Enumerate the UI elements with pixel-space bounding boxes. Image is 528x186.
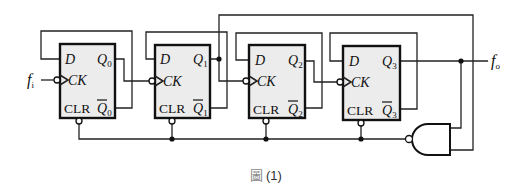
ff0-ck-label: CK	[68, 73, 87, 88]
wire-clr-bus	[79, 124, 405, 139]
junction-q1	[216, 56, 221, 61]
ff1-d-label: D	[159, 52, 170, 67]
ff1-ck-label: CK	[163, 74, 182, 89]
wire-q3-to-nand	[450, 61, 461, 128]
ff0-d-label: D	[64, 52, 75, 67]
ff1-clr-label: CLR	[159, 101, 185, 116]
input-frequency-label: fi	[27, 71, 34, 90]
ff3-d-label: D	[348, 54, 359, 69]
junction-clr3	[358, 136, 363, 141]
wire-q2-to-ck3	[305, 61, 337, 82]
nand-gate	[406, 124, 451, 155]
figure-caption: 圖(1)	[250, 168, 282, 183]
junction-clr1	[169, 136, 174, 141]
ff2-ck-label: CK	[257, 74, 276, 89]
output-frequency-label: fo	[491, 52, 500, 71]
ff0-clr-label: CLR	[64, 101, 90, 116]
ff2-d-label: D	[254, 53, 265, 68]
ff2-clr-label: CLR	[253, 102, 279, 117]
junction-clr2	[263, 136, 268, 141]
ff3-clr-label: CLR	[347, 103, 373, 118]
counter-circuit-diagram: D CK CLR Q0 Q0 D CK CLR Q1 Q1 D CK CLR Q…	[0, 0, 528, 186]
ff3-ck-label: CK	[351, 75, 370, 90]
junction-q3	[458, 58, 463, 63]
